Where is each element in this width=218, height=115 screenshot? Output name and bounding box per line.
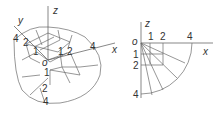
x-tick-4-right: 4 <box>187 31 193 42</box>
x-tick-1-right: 1 <box>148 31 154 42</box>
y-tick-2: 2 <box>23 37 29 48</box>
right-figure: z x o 1 2 4 1 2 4 <box>132 18 213 100</box>
x-axis-label-right: x <box>202 46 209 57</box>
grid-lines <box>22 30 98 103</box>
diagram-canvas: z x y o 4 2 1 1 2 4 1 2 4 z x o 1 2 4 1 … <box>0 0 218 115</box>
origin-label-right: o <box>132 36 138 47</box>
x-tick-2-right: 2 <box>160 31 166 42</box>
y-tick-1: 1 <box>33 46 39 57</box>
y-tick-4: 4 <box>13 33 19 44</box>
x-tick-1: 1 <box>58 46 64 57</box>
x-tick-2: 2 <box>67 46 73 57</box>
z-tick-1-right: 1 <box>133 49 139 60</box>
left-figure: z x y o 4 2 1 1 2 4 1 2 4 <box>13 5 118 107</box>
z-axis-label: z <box>52 5 58 16</box>
y-axis-label: y <box>17 15 24 26</box>
z-tick-4-right: 4 <box>133 89 139 100</box>
z-tick-2-right: 2 <box>133 60 139 71</box>
z-axis-label-right: z <box>144 18 150 29</box>
z-tick-1: 1 <box>44 67 50 78</box>
z-tick-4: 4 <box>43 96 49 107</box>
x-axis-label: x <box>111 44 118 55</box>
x-tick-4: 4 <box>90 41 96 52</box>
z-tick-2: 2 <box>42 83 48 94</box>
